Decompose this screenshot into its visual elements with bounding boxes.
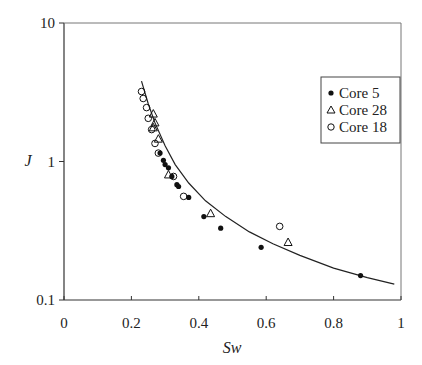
point-core28 — [207, 209, 215, 217]
point-core18 — [145, 115, 152, 122]
legend-label-core5: Core 5 — [339, 85, 379, 101]
axes: 00.20.40.60.810.1110 — [36, 15, 405, 331]
point-core5 — [358, 273, 363, 278]
legend-label-core28: Core 28 — [339, 102, 387, 118]
y-tick-label: 10 — [40, 15, 55, 31]
x-tick-label: 0.2 — [122, 315, 141, 331]
point-core5 — [201, 214, 206, 219]
legend-marker-core5 — [328, 90, 333, 95]
y-tick-label: 1 — [48, 154, 56, 170]
y-axis-title: J — [24, 152, 32, 169]
point-core5 — [259, 245, 264, 250]
point-core18 — [276, 223, 283, 230]
point-core5 — [218, 226, 223, 231]
x-tick-label: 0.8 — [324, 315, 343, 331]
point-core18 — [143, 104, 150, 111]
point-core18 — [180, 193, 187, 200]
x-tick-label: 1 — [397, 315, 405, 331]
legend-label-core18: Core 18 — [339, 119, 387, 135]
x-axis-title: Sw — [223, 339, 242, 356]
point-core28 — [284, 238, 292, 246]
point-core18 — [138, 88, 145, 95]
x-tick-label: 0.6 — [257, 315, 276, 331]
point-core18 — [140, 95, 147, 102]
point-core5 — [176, 184, 181, 189]
x-tick-label: 0 — [60, 315, 68, 331]
x-tick-label: 0.4 — [189, 315, 208, 331]
legend: Core 5 Core 28 Core 18 — [321, 77, 400, 143]
chart: 00.20.40.60.810.1110 Core 5 Core 28 Core… — [0, 0, 422, 365]
y-tick-label: 0.1 — [36, 292, 55, 308]
